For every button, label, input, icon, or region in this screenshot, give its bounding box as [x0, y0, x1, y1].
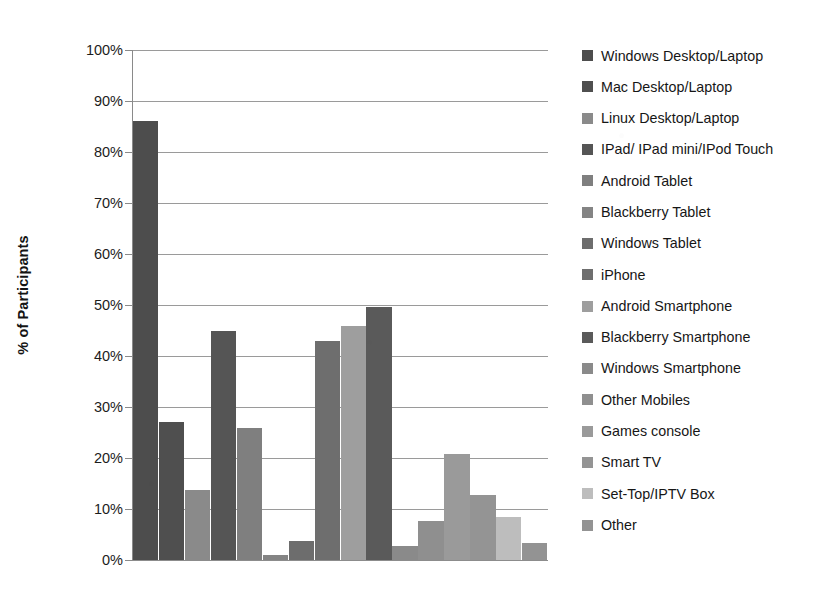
legend-item[interactable]: Blackberry Smartphone: [582, 322, 838, 353]
bar-chart: % of Participants 100%90%80%70%60%50%40%…: [0, 0, 840, 590]
bar[interactable]: [392, 546, 417, 560]
legend-item-label: Android Smartphone: [601, 299, 732, 313]
y-axis-tick-label: 50%: [55, 297, 123, 313]
legend-item-label: Games console: [601, 424, 700, 438]
bar[interactable]: [444, 454, 469, 560]
legend-swatch-icon: [582, 81, 593, 92]
y-axis-tick: [125, 560, 133, 561]
legend-swatch-icon: [582, 113, 593, 124]
legend-swatch-icon: [582, 457, 593, 468]
legend-item-label: Blackberry Smartphone: [601, 330, 750, 344]
y-axis-title-label: % of Participants: [15, 235, 31, 354]
legend-swatch-icon: [582, 426, 593, 437]
y-axis-tick: [125, 50, 133, 51]
legend-item[interactable]: Games console: [582, 416, 838, 447]
y-axis-tick: [125, 407, 133, 408]
legend-item[interactable]: Blackberry Tablet: [582, 196, 838, 227]
legend-swatch-icon: [582, 269, 593, 280]
y-axis-tick: [125, 152, 133, 153]
y-axis-tick-label: 0%: [55, 552, 123, 568]
legend-swatch-icon: [582, 488, 593, 499]
plot-area: [133, 50, 548, 560]
y-axis-tick-label: 80%: [55, 144, 123, 160]
legend-swatch-icon: [582, 238, 593, 249]
legend-item-label: Windows Tablet: [601, 236, 701, 250]
bar[interactable]: [315, 341, 340, 560]
legend-swatch-icon: [582, 144, 593, 155]
y-axis-tick-label: 70%: [55, 195, 123, 211]
legend-swatch-icon: [582, 520, 593, 531]
y-axis-tick: [125, 509, 133, 510]
legend-item[interactable]: Other: [582, 509, 838, 540]
legend-swatch-icon: [582, 394, 593, 405]
y-axis-tick: [125, 458, 133, 459]
legend-item-label: Android Tablet: [601, 174, 692, 188]
legend-item[interactable]: Windows Desktop/Laptop: [582, 40, 838, 71]
legend-swatch-icon: [582, 332, 593, 343]
legend-item-label: Windows Smartphone: [601, 361, 741, 375]
y-axis-tick-label: 20%: [55, 450, 123, 466]
bar[interactable]: [159, 422, 184, 560]
legend-swatch-icon: [582, 50, 593, 61]
legend-swatch-icon: [582, 207, 593, 218]
legend-item-label: Linux Desktop/Laptop: [601, 111, 739, 125]
legend-swatch-icon: [582, 363, 593, 374]
bar[interactable]: [341, 326, 366, 560]
legend-item-label: Blackberry Tablet: [601, 205, 710, 219]
legend-item[interactable]: Android Smartphone: [582, 290, 838, 321]
legend-item[interactable]: Other Mobiles: [582, 384, 838, 415]
legend-item[interactable]: Mac Desktop/Laptop: [582, 71, 838, 102]
legend-item[interactable]: Smart TV: [582, 447, 838, 478]
legend-item-label: Mac Desktop/Laptop: [601, 80, 732, 94]
y-axis-tick-label: 30%: [55, 399, 123, 415]
legend-item[interactable]: Linux Desktop/Laptop: [582, 103, 838, 134]
legend-item-label: Other Mobiles: [601, 393, 690, 407]
legend-item-label: IPad/ IPad mini/IPod Touch: [601, 142, 773, 156]
y-axis-tick-label: 90%: [55, 93, 123, 109]
bar[interactable]: [496, 517, 521, 560]
legend-item-label: Other: [601, 518, 637, 532]
legend-item-label: Smart TV: [601, 455, 661, 469]
legend: Windows Desktop/LaptopMac Desktop/Laptop…: [582, 40, 838, 541]
legend-item[interactable]: Windows Smartphone: [582, 353, 838, 384]
y-axis-tick-label: 10%: [55, 501, 123, 517]
bar[interactable]: [185, 490, 210, 560]
y-axis-tick-label: 100%: [55, 42, 123, 58]
y-axis-tick: [125, 305, 133, 306]
y-axis-tick: [125, 101, 133, 102]
legend-item[interactable]: IPad/ IPad mini/IPod Touch: [582, 134, 838, 165]
legend-item-label: iPhone: [601, 268, 646, 282]
y-axis-tick-labels: 100%90%80%70%60%50%40%30%20%10%0%: [45, 0, 123, 590]
bar[interactable]: [366, 307, 391, 560]
y-axis-tick-label: 60%: [55, 246, 123, 262]
bar[interactable]: [522, 543, 547, 560]
legend-swatch-icon: [582, 301, 593, 312]
bar[interactable]: [133, 121, 158, 560]
legend-item-label: Windows Desktop/Laptop: [601, 49, 763, 63]
legend-swatch-icon: [582, 175, 593, 186]
bar[interactable]: [289, 541, 314, 560]
y-axis-tick: [125, 356, 133, 357]
bars-layer: [133, 50, 548, 560]
legend-item[interactable]: iPhone: [582, 259, 838, 290]
legend-item[interactable]: Set-Top/IPTV Box: [582, 478, 838, 509]
legend-item[interactable]: Windows Tablet: [582, 228, 838, 259]
legend-item[interactable]: Android Tablet: [582, 165, 838, 196]
bar[interactable]: [237, 428, 262, 560]
gridline: [133, 560, 548, 561]
y-axis-tick: [125, 203, 133, 204]
legend-item-label: Set-Top/IPTV Box: [601, 487, 715, 501]
bar[interactable]: [211, 331, 236, 560]
bar[interactable]: [470, 495, 495, 560]
y-axis-tick: [125, 254, 133, 255]
bar[interactable]: [418, 521, 443, 560]
y-axis-tick-label: 40%: [55, 348, 123, 364]
bar[interactable]: [263, 555, 288, 560]
y-axis-title: % of Participants: [6, 0, 40, 590]
